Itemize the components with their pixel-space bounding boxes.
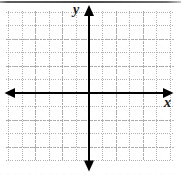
y-axis-label: y: [73, 3, 79, 17]
y-axis-top-arrowhead: [84, 5, 94, 16]
y-axis-bottom-arrowhead: [84, 161, 94, 172]
coordinate-plane-figure: y x: [0, 0, 181, 175]
x-axis-left-arrowhead: [5, 88, 16, 98]
x-axis-label: x: [164, 96, 171, 110]
coordinate-grid-surface: [0, 0, 181, 175]
